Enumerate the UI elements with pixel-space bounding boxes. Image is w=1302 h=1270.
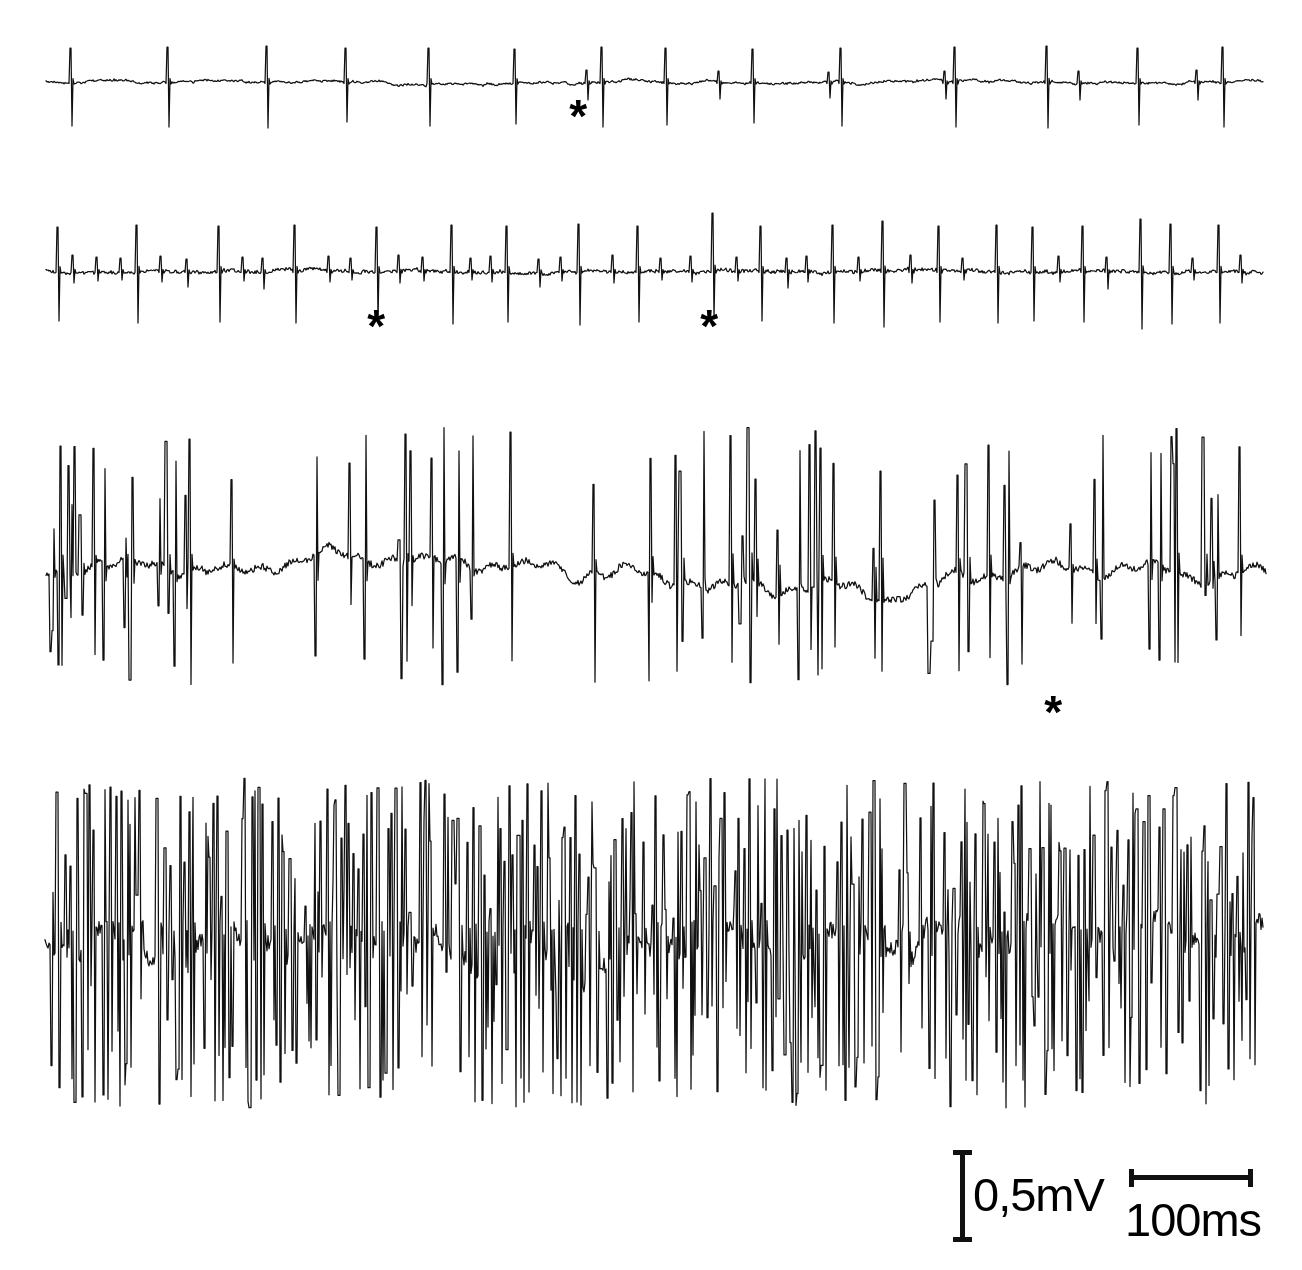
vertical-scale-bar-icon xyxy=(960,1152,965,1240)
asterisk-marker: * xyxy=(569,93,587,139)
vertical-scale-bar-icon-cap-bottom xyxy=(953,1237,972,1242)
asterisk-marker: * xyxy=(700,303,718,349)
vertical-scalebar: 0,5mV xyxy=(940,1140,1120,1255)
horizontal-scale-bar-icon-cap-right xyxy=(1248,1169,1253,1187)
horizontal-scalebar: 100ms xyxy=(1120,1150,1295,1260)
horizontal-scale-bar-icon xyxy=(1130,1175,1252,1180)
horizontal-scalebar-label: 100ms xyxy=(1125,1192,1261,1247)
emg-figure: **** 0,5mV 100ms xyxy=(0,0,1302,1270)
asterisk-marker: * xyxy=(367,303,385,349)
emg-trace-canvas xyxy=(0,0,1302,1270)
vertical-scalebar-label: 0,5mV xyxy=(973,1167,1104,1222)
asterisk-marker: * xyxy=(1044,689,1062,735)
